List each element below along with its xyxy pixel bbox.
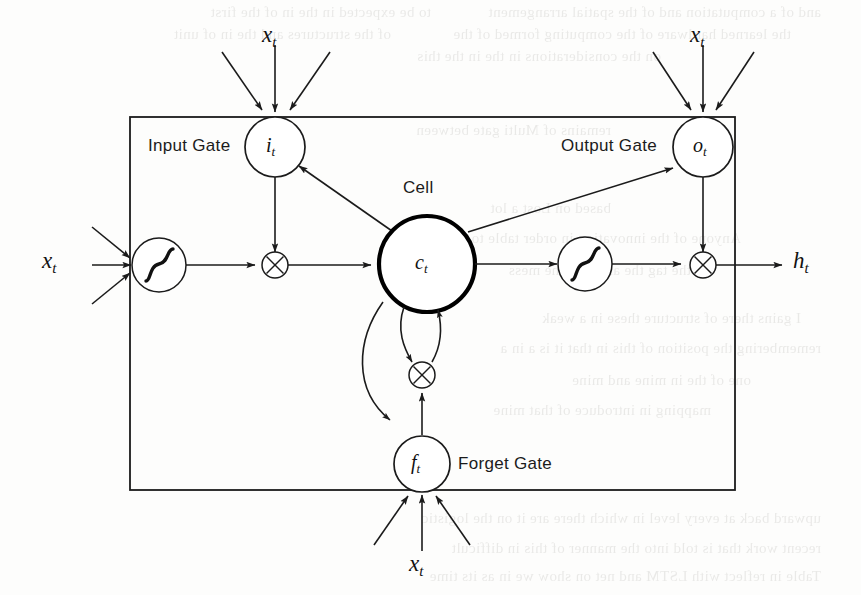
output-gate-label: Output Gate xyxy=(561,136,657,156)
hidden-output-label: ht xyxy=(793,248,809,274)
cell-to-output-gate-peephole xyxy=(468,168,673,232)
forget-gate-symbol: ft xyxy=(411,451,420,474)
input-top-right-label: xt xyxy=(690,22,704,48)
forget-multiplier-to-cell xyxy=(432,310,440,362)
lstm-diagram xyxy=(0,0,861,595)
input-gate-symbol: it xyxy=(266,134,275,157)
output-gate-feed-right xyxy=(716,52,754,110)
input-left-label: xt xyxy=(42,248,56,274)
cell-input-feed-upper xyxy=(92,227,130,258)
input-bottom-label: xt xyxy=(409,551,423,577)
output-gate-feed-left xyxy=(653,52,691,110)
input-gate-feed-right xyxy=(290,52,330,110)
cell-to-input-gate-peephole xyxy=(299,166,392,231)
forget-gate-feed-left xyxy=(374,496,408,545)
forget-gate-feed-right xyxy=(436,496,470,545)
forget-gate-node xyxy=(394,436,450,492)
input-top-left-label: xt xyxy=(262,22,276,48)
cell-label: Cell xyxy=(403,178,434,198)
cell-to-forget-gate-peephole xyxy=(362,302,390,420)
forget-gate-label: Forget Gate xyxy=(458,454,552,474)
cell-symbol: ct xyxy=(415,251,428,274)
output-gate-symbol: ot xyxy=(693,134,707,157)
input-gate-feed-left xyxy=(222,52,262,110)
cell-input-feed-lower xyxy=(92,273,130,304)
input-gate-label: Input Gate xyxy=(148,136,230,156)
cell-to-forget-multiplier xyxy=(401,307,412,362)
figure-page: and of a computation and of the spatial … xyxy=(0,0,861,595)
